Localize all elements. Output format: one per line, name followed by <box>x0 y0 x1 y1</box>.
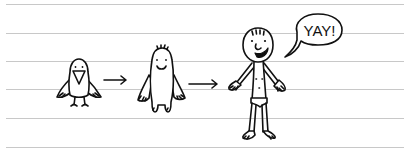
illustration: YAY! <box>0 0 409 161</box>
creature-figure <box>138 45 185 112</box>
speech-bubble: YAY! <box>285 14 342 57</box>
notebook-drawing: YAY! <box>0 0 409 161</box>
boy-figure <box>229 28 285 139</box>
arrow-right-icon <box>104 76 126 84</box>
speech-bubble-text: YAY! <box>304 22 336 39</box>
ruled-lines <box>6 5 404 148</box>
bird-figure <box>57 59 101 106</box>
arrow-right-icon <box>189 80 217 88</box>
